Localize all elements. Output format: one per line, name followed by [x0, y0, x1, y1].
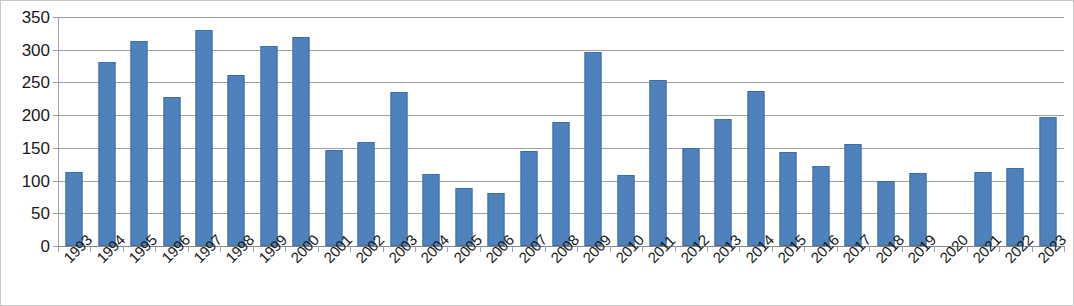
- bar-slot: [90, 17, 122, 246]
- x-tick: [90, 246, 91, 252]
- bar: [196, 30, 213, 246]
- x-tick: [188, 246, 189, 252]
- bar: [747, 91, 764, 246]
- bar: [260, 46, 277, 246]
- bar-slot: [155, 17, 187, 246]
- x-tick: [512, 246, 513, 252]
- x-tick: [869, 246, 870, 252]
- bar-slot: [610, 17, 642, 246]
- bar: [358, 142, 375, 246]
- bar: [650, 80, 667, 246]
- x-tick: [545, 246, 546, 252]
- bar-slot: [447, 17, 479, 246]
- x-tick: [804, 246, 805, 252]
- x-tick: [415, 246, 416, 252]
- y-axis-tick-label: 0: [6, 238, 50, 255]
- x-tick: [577, 246, 578, 252]
- bar-slot: [285, 17, 317, 246]
- x-tick: [675, 246, 676, 252]
- bar: [131, 41, 148, 246]
- bar: [163, 97, 180, 246]
- bar-slot: [220, 17, 252, 246]
- bar: [585, 52, 602, 246]
- x-tick: [383, 246, 384, 252]
- bar-slot: [772, 17, 804, 246]
- bar-slot: [967, 17, 999, 246]
- bar-slot: [804, 17, 836, 246]
- x-tick: [707, 246, 708, 252]
- x-tick: [999, 246, 1000, 252]
- bar-slot: [837, 17, 869, 246]
- y-tick-50: [53, 213, 59, 214]
- bar: [845, 144, 862, 246]
- y-tick-100: [53, 181, 59, 182]
- x-tick: [155, 246, 156, 252]
- y-tick-250: [53, 82, 59, 83]
- bar: [682, 148, 699, 246]
- bar-slot: [512, 17, 544, 246]
- x-tick: [1032, 246, 1033, 252]
- x-tick: [739, 246, 740, 252]
- bar-slot: [318, 17, 350, 246]
- x-tick: [772, 246, 773, 252]
- x-tick: [610, 246, 611, 252]
- plot-area: [58, 17, 1064, 246]
- bar-slot: [999, 17, 1031, 246]
- bar-slot: [934, 17, 966, 246]
- bar-slot: [383, 17, 415, 246]
- x-tick: [1064, 246, 1065, 252]
- bar: [715, 119, 732, 246]
- bar-slot: [545, 17, 577, 246]
- chart-container: 050100150200250300350 199319941995199619…: [0, 0, 1074, 306]
- bar: [552, 122, 569, 246]
- y-axis-tick-label: 250: [6, 74, 50, 91]
- x-tick: [934, 246, 935, 252]
- bar-slot: [123, 17, 155, 246]
- bar-slot: [58, 17, 90, 246]
- y-axis-tick-label: 100: [6, 172, 50, 189]
- bar-slot: [577, 17, 609, 246]
- x-tick: [253, 246, 254, 252]
- bar-slot: [869, 17, 901, 246]
- bar-slot: [739, 17, 771, 246]
- y-axis-tick-label: 300: [6, 41, 50, 58]
- y-axis-tick-label: 150: [6, 139, 50, 156]
- bar-slot: [675, 17, 707, 246]
- bar-slot: [188, 17, 220, 246]
- y-axis-tick-label: 350: [6, 9, 50, 26]
- x-tick: [642, 246, 643, 252]
- x-tick: [902, 246, 903, 252]
- y-axis-tick-label: 200: [6, 107, 50, 124]
- bar: [98, 62, 115, 246]
- y-tick-150: [53, 148, 59, 149]
- x-tick: [350, 246, 351, 252]
- bar-slot: [480, 17, 512, 246]
- bar-slot: [415, 17, 447, 246]
- x-tick: [123, 246, 124, 252]
- bar: [520, 151, 537, 246]
- x-tick: [318, 246, 319, 252]
- bar-slot: [902, 17, 934, 246]
- x-tick: [220, 246, 221, 252]
- bar: [293, 37, 310, 246]
- x-tick: [285, 246, 286, 252]
- y-tick-200: [53, 115, 59, 116]
- bar: [228, 75, 245, 246]
- bar-slot: [350, 17, 382, 246]
- bar-slot: [707, 17, 739, 246]
- x-tick: [967, 246, 968, 252]
- x-tick: [480, 246, 481, 252]
- bar: [390, 92, 407, 246]
- bar-slot: [642, 17, 674, 246]
- bar-slot: [253, 17, 285, 246]
- bar: [1039, 117, 1056, 246]
- y-axis-tick-label: 50: [6, 205, 50, 222]
- y-axis-labels: 050100150200250300350: [1, 1, 50, 306]
- y-tick-300: [53, 50, 59, 51]
- y-tick-0: [53, 246, 59, 247]
- x-tick: [447, 246, 448, 252]
- bar: [325, 150, 342, 246]
- bar-slot: [1032, 17, 1064, 246]
- x-tick: [837, 246, 838, 252]
- y-tick-350: [53, 17, 59, 18]
